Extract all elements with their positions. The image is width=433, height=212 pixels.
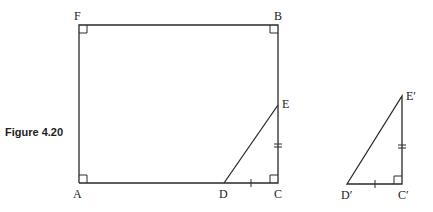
segment-de — [224, 105, 278, 183]
geometry-diagram: F B E A D C E′ D′ C′ Figure 4.20 — [0, 0, 433, 212]
label-b: B — [274, 9, 282, 23]
label-c: C — [274, 187, 282, 201]
label-a: A — [73, 187, 82, 201]
label-c-prime: C′ — [398, 188, 409, 202]
right-angle-a-icon — [79, 175, 87, 183]
label-f: F — [74, 9, 81, 23]
rectangle-outline — [79, 25, 278, 183]
label-e-prime: E′ — [406, 89, 416, 103]
triangle-dce-prime — [347, 96, 406, 188]
label-e: E — [282, 97, 289, 111]
rectangle-afbc — [79, 25, 282, 187]
label-d-prime: D′ — [341, 188, 353, 202]
label-d: D — [219, 187, 228, 201]
right-angle-b-icon — [270, 25, 278, 33]
triangle-outline — [347, 96, 402, 184]
right-angle-f-icon — [79, 25, 87, 33]
figure-caption: Figure 4.20 — [5, 126, 63, 138]
right-angle-c-icon — [270, 175, 278, 183]
right-angle-c-prime-icon — [394, 176, 402, 184]
